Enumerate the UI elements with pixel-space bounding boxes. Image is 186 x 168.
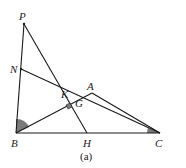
point-n [20,68,22,70]
segment-pb [16,24,24,133]
label-n: N [9,63,18,75]
label-a: A [86,80,94,92]
segment-ph [24,24,87,133]
angle-mark-b [16,119,29,133]
segment-ac [92,93,160,133]
label-g: G [75,97,83,109]
point-p [23,23,25,25]
segment-nc [21,69,160,133]
geometry-diagram: P N A K G B H C (a) [0,0,186,168]
label-c: C [155,137,163,149]
label-p: P [18,10,26,22]
figure-caption: (a) [80,150,93,163]
label-k: K [60,88,69,100]
label-b: B [11,137,18,149]
label-h: H [82,137,92,149]
